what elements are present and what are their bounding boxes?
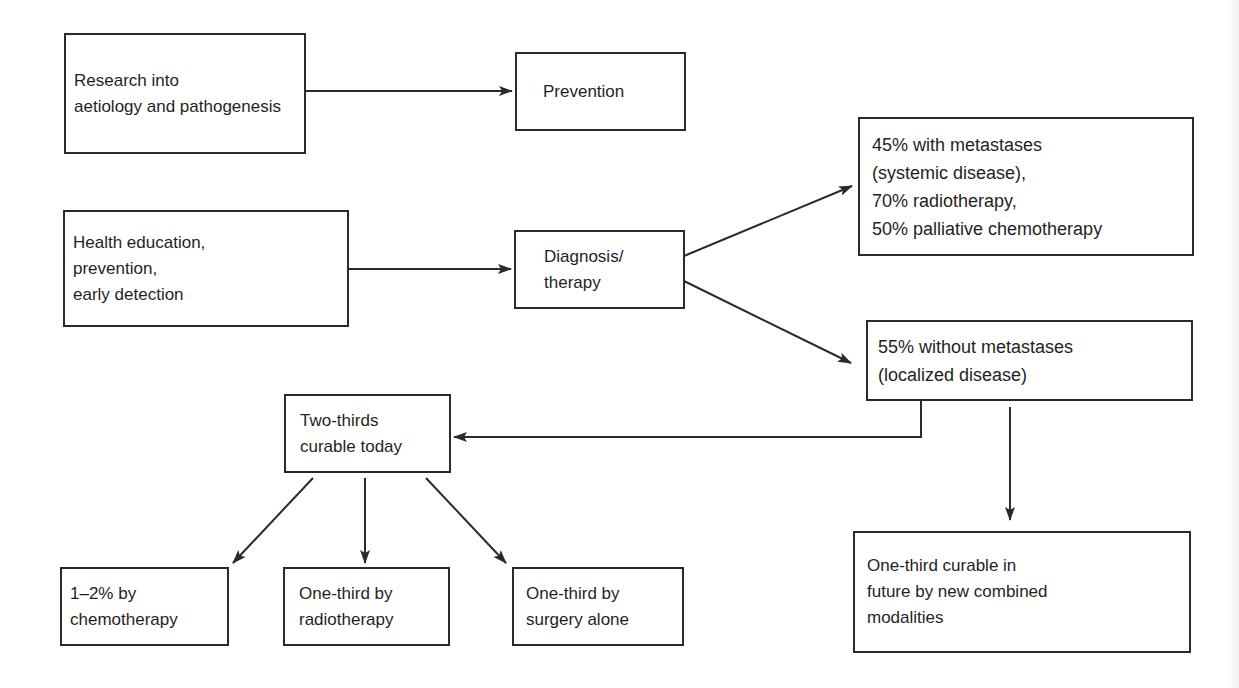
node-prevention: Prevention	[515, 52, 686, 131]
node-two-thirds: Two-thirds curable today	[284, 394, 451, 473]
arrow-localized-to-two-thirds	[454, 400, 921, 437]
arrow-diagnosis-to-metastases	[684, 186, 852, 256]
node-two-thirds-label: Two-thirds curable today	[300, 408, 402, 460]
node-future: One-third curable in future by new combi…	[853, 531, 1191, 653]
node-research-label: Research into aetiology and pathogenesis	[74, 68, 281, 120]
node-localized-label: 55% without metastases (localized diseas…	[878, 333, 1073, 389]
node-surgery-label: One-third by surgery alone	[526, 581, 629, 633]
node-localized: 55% without metastases (localized diseas…	[866, 320, 1193, 401]
arrow-two-thirds-to-surgery	[426, 478, 506, 563]
node-metastases-label: 45% with metastases (systemic disease), …	[872, 131, 1102, 243]
node-radio-label: One-third by radiotherapy	[299, 581, 394, 633]
node-chemo: 1–2% by chemotherapy	[60, 567, 229, 646]
arrow-diagnosis-to-localized	[684, 281, 851, 363]
node-future-label: One-third curable in future by new combi…	[867, 553, 1048, 631]
node-radio: One-third by radiotherapy	[283, 567, 450, 646]
node-metastases: 45% with metastases (systemic disease), …	[858, 117, 1194, 256]
node-surgery: One-third by surgery alone	[512, 567, 684, 646]
node-health-label: Health education, prevention, early dete…	[73, 230, 205, 308]
arrow-two-thirds-to-chemo	[233, 478, 313, 563]
node-research: Research into aetiology and pathogenesis	[64, 33, 306, 154]
node-chemo-label: 1–2% by chemotherapy	[70, 581, 178, 633]
node-health: Health education, prevention, early dete…	[63, 210, 349, 327]
node-diagnosis-label: Diagnosis/ therapy	[544, 244, 623, 296]
node-prevention-label: Prevention	[543, 79, 624, 105]
node-diagnosis: Diagnosis/ therapy	[514, 230, 685, 309]
